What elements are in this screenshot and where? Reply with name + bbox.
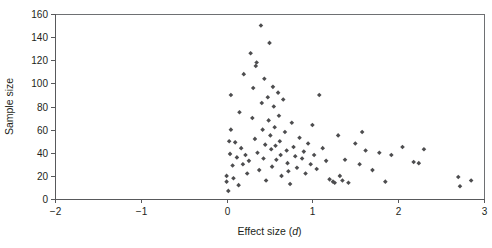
scatter-point xyxy=(233,140,238,145)
y-axis-tick-label: 120 xyxy=(31,55,48,66)
scatter-point xyxy=(363,148,368,153)
scatter-point xyxy=(243,153,248,158)
scatter-point xyxy=(259,23,264,28)
scatter-point xyxy=(276,90,281,95)
y-axis-tick-label: 0 xyxy=(42,194,48,205)
scatter-point xyxy=(303,171,308,176)
scatter-point xyxy=(253,137,258,142)
scatter-point xyxy=(245,171,250,176)
y-axis-tick-label: 60 xyxy=(37,125,49,136)
data-points xyxy=(224,23,473,193)
scatter-point xyxy=(346,181,351,186)
scatter-point xyxy=(286,169,291,174)
scatter-point xyxy=(317,93,322,98)
scatter-point xyxy=(290,120,295,125)
scatter-point xyxy=(273,144,278,149)
scatter-point xyxy=(370,168,375,173)
scatter-point xyxy=(264,178,269,183)
scatter-plot-figure: 020406080100120140160−2−10123 Effect siz… xyxy=(0,0,492,248)
scatter-point xyxy=(416,161,421,166)
scatter-point xyxy=(269,147,274,152)
scatter-point xyxy=(389,153,394,158)
scatter-point xyxy=(360,130,365,135)
scatter-point xyxy=(411,160,416,165)
scatter-point xyxy=(224,179,229,184)
x-axis-tick-label: 3 xyxy=(482,206,488,217)
scatter-point xyxy=(422,147,427,152)
scatter-point xyxy=(310,123,315,128)
scatter-point xyxy=(247,159,252,164)
scatter-point xyxy=(277,113,282,118)
scatter-point xyxy=(291,145,296,150)
x-axis-tick-label: 1 xyxy=(310,206,316,217)
y-axis-tick-label: 160 xyxy=(31,9,48,20)
scatter-point xyxy=(253,64,258,69)
scatter-point xyxy=(400,145,405,150)
scatter-point xyxy=(260,127,265,132)
scatter-point xyxy=(255,150,260,155)
scatter-point xyxy=(265,95,270,100)
scatter-point xyxy=(241,72,246,77)
x-axis-title: Effect size (d) xyxy=(237,225,301,237)
scatter-point xyxy=(250,116,255,121)
scatter-point xyxy=(306,141,311,146)
scatter-point xyxy=(340,178,345,183)
scatter-point xyxy=(274,157,279,162)
scatter-point xyxy=(267,41,272,46)
scatter-point xyxy=(281,97,286,102)
scatter-point xyxy=(357,162,362,167)
x-axis-tick-label: −2 xyxy=(50,206,62,217)
y-axis-tick-label: 40 xyxy=(37,148,49,159)
scatter-point xyxy=(235,155,240,160)
scatter-point xyxy=(285,161,290,166)
scatter-point xyxy=(251,86,256,91)
scatter-point xyxy=(456,175,461,180)
scatter-point xyxy=(336,133,341,138)
scatter-point xyxy=(229,127,234,132)
scatter-point xyxy=(271,85,276,90)
scatter-point xyxy=(284,148,289,153)
scatter-point xyxy=(227,139,232,144)
scatter-point xyxy=(231,176,236,181)
scatter-point xyxy=(261,156,266,161)
scatter-point xyxy=(248,51,253,56)
scatter-point xyxy=(230,163,235,168)
scatter-point xyxy=(324,159,329,164)
scatter-point xyxy=(228,152,233,157)
scatter-point xyxy=(300,156,305,161)
scatter-point xyxy=(293,154,298,159)
axis-tick-labels: 020406080100120140160−2−10123 xyxy=(31,9,487,217)
scatter-point xyxy=(278,153,283,158)
scatter-point xyxy=(353,141,358,146)
scatter-point xyxy=(302,149,307,154)
scatter-point xyxy=(270,164,275,169)
scatter-point xyxy=(343,157,348,162)
scatter-point xyxy=(314,167,319,172)
scatter-point xyxy=(268,133,273,138)
scatter-point xyxy=(288,182,293,187)
scatter-point xyxy=(229,93,234,98)
scatter-point xyxy=(338,174,343,179)
scatter-point xyxy=(458,184,463,189)
scatter-point xyxy=(266,118,271,123)
y-axis-tick-label: 100 xyxy=(31,78,48,89)
scatter-point xyxy=(377,150,382,155)
x-axis-tick-label: 2 xyxy=(396,206,402,217)
scatter-point xyxy=(241,162,246,167)
scatter-point xyxy=(283,130,288,135)
scatter-point xyxy=(277,139,282,144)
y-axis-tick-label: 140 xyxy=(31,32,48,43)
scatter-point xyxy=(272,125,277,130)
x-axis-tick-label: 0 xyxy=(225,206,231,217)
scatter-point xyxy=(469,178,474,183)
scatter-point xyxy=(254,60,259,65)
scatter-point xyxy=(239,146,244,151)
scatter-point xyxy=(259,101,264,106)
y-axis-title: Sample size xyxy=(3,78,15,135)
y-axis-tick-label: 80 xyxy=(37,102,49,113)
scatter-point xyxy=(236,183,241,188)
x-axis-tick-label: −1 xyxy=(136,206,148,217)
scatter-point xyxy=(383,179,388,184)
scatter-point xyxy=(279,174,284,179)
scatter-point xyxy=(226,189,231,194)
